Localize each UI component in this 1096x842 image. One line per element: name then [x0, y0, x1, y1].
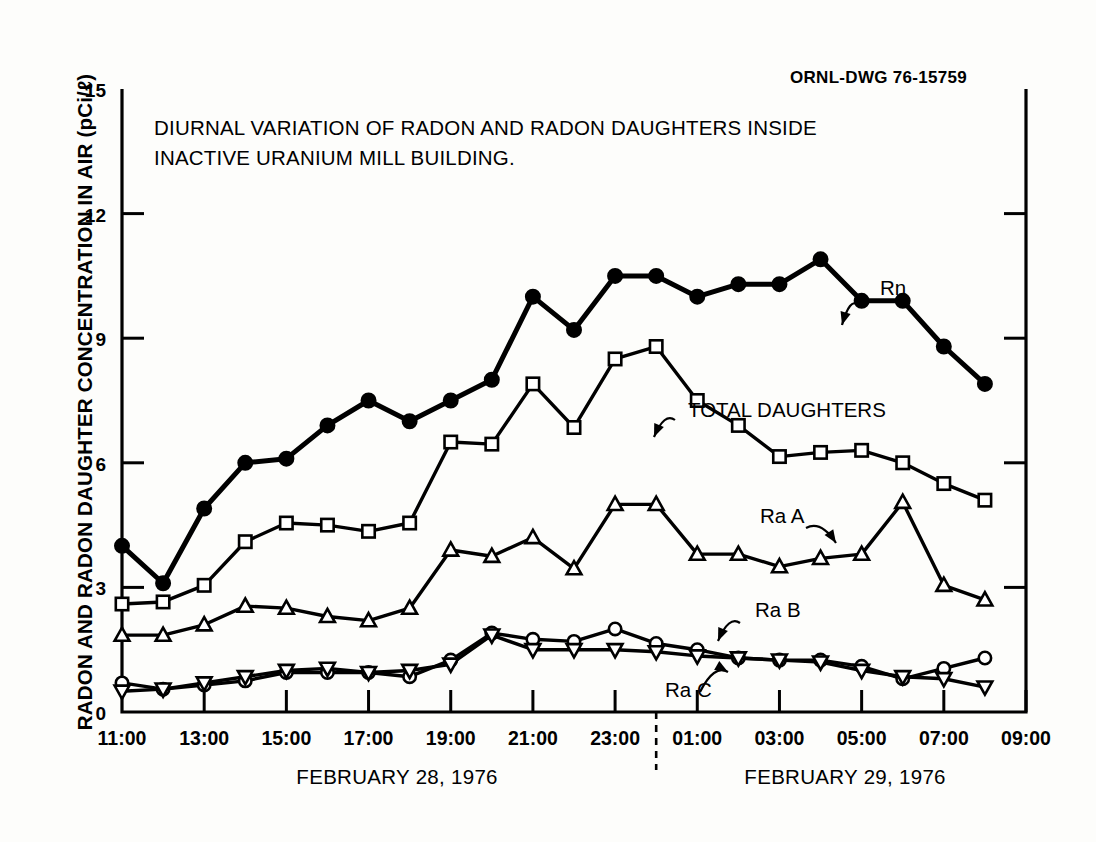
marker-filled-circle: [485, 373, 499, 387]
marker-filled-circle: [937, 340, 951, 354]
marker-filled-circle: [814, 252, 828, 266]
marker-open-square: [445, 436, 457, 448]
marker-open-triangle-up: [526, 530, 541, 543]
marker-open-triangle-up: [484, 549, 499, 562]
y-tick-label: 6: [95, 454, 106, 475]
series-line-total-daughters: [122, 347, 985, 605]
marker-open-triangle-down: [567, 644, 582, 657]
y-tick-label: 3: [95, 578, 106, 599]
marker-open-square: [568, 421, 580, 433]
marker-filled-circle: [444, 394, 458, 408]
y-tick-label: 0: [95, 703, 106, 724]
marker-open-square: [486, 438, 498, 450]
marker-filled-circle: [115, 539, 129, 553]
marker-filled-circle: [156, 576, 170, 590]
marker-open-triangle-up: [895, 495, 910, 508]
marker-filled-circle: [649, 269, 663, 283]
marker-open-square: [157, 596, 169, 608]
marker-filled-circle: [362, 394, 376, 408]
marker-open-triangle-down: [526, 644, 541, 657]
x-tick-label: 11:00: [98, 727, 147, 749]
marker-filled-circle: [772, 277, 786, 291]
annotation-arrowhead: [714, 661, 728, 672]
marker-filled-circle: [197, 501, 211, 515]
marker-open-triangle-up: [320, 609, 335, 622]
marker-filled-circle: [320, 418, 334, 432]
annotation-arrowhead: [841, 311, 851, 325]
marker-open-square: [979, 494, 991, 506]
marker-filled-circle: [279, 452, 293, 466]
marker-filled-circle: [690, 290, 704, 304]
marker-open-circle: [609, 623, 621, 635]
x-tick-label: 07:00: [919, 727, 969, 749]
marker-open-square: [116, 598, 128, 610]
marker-open-triangle-down: [690, 650, 705, 663]
day2-label: FEBRUARY 29, 1976: [744, 765, 945, 788]
marker-open-triangle-down: [115, 686, 130, 699]
marker-open-triangle-up: [936, 578, 951, 591]
marker-open-square: [609, 353, 621, 365]
marker-open-square: [938, 477, 950, 489]
chart-title-line: DIURNAL VARIATION OF RADON AND RADON DAU…: [154, 116, 817, 139]
marker-open-square: [239, 536, 251, 548]
marker-open-triangle-up: [731, 547, 746, 560]
marker-open-triangle-down: [361, 667, 376, 680]
marker-filled-circle: [608, 269, 622, 283]
figure-page: ORNL-DWG 76-15759 RADON AND RADON DAUGHT…: [0, 0, 1096, 842]
marker-open-triangle-down: [854, 665, 869, 678]
annotation-arrowhead: [654, 423, 664, 437]
series-annotation-ra-b: Ra B: [755, 598, 801, 621]
x-tick-label: 05:00: [837, 727, 887, 749]
marker-open-square: [650, 340, 662, 352]
marker-open-square: [280, 517, 292, 529]
x-tick-label: 13:00: [179, 727, 229, 749]
marker-open-square: [403, 517, 415, 529]
y-tick-label: 9: [95, 329, 106, 350]
day1-label: FEBRUARY 28, 1976: [296, 765, 497, 788]
series-annotation-ra-a: Ra A: [760, 504, 805, 527]
marker-open-triangle-down: [772, 654, 787, 667]
marker-open-square: [897, 457, 909, 469]
marker-open-triangle-down: [443, 659, 458, 672]
marker-open-triangle-down: [936, 673, 951, 686]
chart-title-line: INACTIVE URANIUM MILL BUILDING.: [154, 146, 515, 169]
marker-filled-circle: [978, 377, 992, 391]
marker-open-square: [362, 525, 374, 537]
x-tick-label: 09:00: [1001, 727, 1051, 749]
marker-open-triangle-up: [361, 613, 376, 626]
marker-open-triangle-down: [608, 644, 623, 657]
series-annotation-total-daughters: TOTAL DAUGHTERS: [688, 398, 886, 421]
marker-open-square: [773, 450, 785, 462]
marker-open-triangle-down: [156, 684, 171, 697]
marker-open-triangle-up: [279, 601, 294, 614]
series-annotation-rn: Rn: [880, 276, 906, 299]
marker-open-triangle-up: [772, 559, 787, 572]
marker-open-triangle-up: [978, 592, 993, 605]
marker-open-square: [321, 519, 333, 531]
marker-open-triangle-up: [197, 617, 212, 630]
marker-open-triangle-down: [731, 652, 746, 665]
annotation-arrowhead: [718, 627, 728, 641]
marker-open-triangle-up: [649, 497, 664, 510]
marker-filled-circle: [403, 414, 417, 428]
marker-open-triangle-down: [978, 681, 993, 694]
chart-plot-area: 0369121511:0013:0015:0017:0019:0021:0023…: [0, 0, 1096, 842]
axis-frame: [122, 89, 1026, 712]
marker-open-square: [732, 419, 744, 431]
x-tick-label: 01:00: [672, 727, 722, 749]
marker-open-triangle-down: [649, 646, 664, 659]
series-line-ra-a: [122, 502, 985, 635]
marker-filled-circle: [567, 323, 581, 337]
marker-open-triangle-up: [813, 551, 828, 564]
x-tick-label: 15:00: [261, 727, 311, 749]
y-tick-label: 15: [85, 80, 107, 101]
x-tick-label: 03:00: [755, 727, 805, 749]
marker-open-triangle-up: [156, 628, 171, 641]
x-tick-label: 17:00: [344, 727, 394, 749]
marker-open-triangle-up: [115, 628, 130, 641]
marker-open-square: [527, 378, 539, 390]
x-tick-label: 23:00: [590, 727, 640, 749]
marker-filled-circle: [526, 290, 540, 304]
marker-open-circle: [979, 652, 991, 664]
marker-open-triangle-up: [443, 542, 458, 555]
